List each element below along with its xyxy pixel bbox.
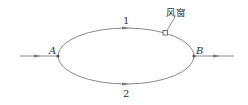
branch-2-label: 2 xyxy=(123,88,129,99)
node-a xyxy=(56,54,59,57)
node-a-label: A xyxy=(48,45,56,56)
ventilation-network-diagram: A B 1 2 风窗 xyxy=(0,0,248,105)
regulator-leader-line xyxy=(167,17,175,31)
node-b-label: B xyxy=(195,45,203,56)
branch-1-arrow-icon xyxy=(122,27,129,30)
branch-ellipse xyxy=(58,28,194,84)
branch-1-label: 1 xyxy=(123,15,129,26)
inlet-arrow-icon xyxy=(34,55,41,58)
regulator-label: 风窗 xyxy=(166,7,186,18)
regulator-window-icon xyxy=(163,31,168,36)
branch-2-arrow-icon xyxy=(122,83,129,86)
outlet-arrow-icon xyxy=(213,55,220,58)
